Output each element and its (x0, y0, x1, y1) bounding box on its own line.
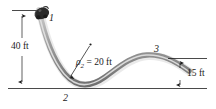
label-radius-of-curvature: ρ2 = 20 ft (76, 58, 112, 70)
coaster-car (33, 6, 50, 21)
label-point-3: 3 (154, 44, 159, 54)
roller-coaster-figure: 1 2 3 40 ft 15 ft ρ2 = 20 ft (0, 0, 216, 109)
label-point-2: 2 (63, 93, 68, 103)
label-height-15ft: 15 ft (187, 69, 205, 79)
figure-graphics (0, 0, 216, 109)
rho-equation: = 20 ft (84, 57, 112, 67)
label-height-40ft: 40 ft (11, 42, 29, 52)
label-point-1: 1 (49, 13, 54, 23)
